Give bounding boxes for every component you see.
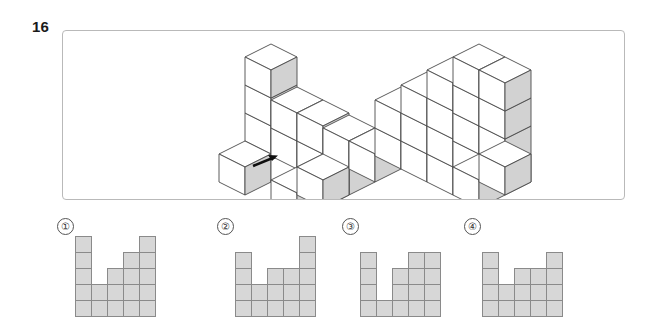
grid-column (92, 284, 108, 316)
grid-column (483, 252, 499, 316)
grid-column (547, 252, 563, 316)
grid-cell (299, 268, 316, 285)
grid-cell (75, 252, 92, 269)
grid-cell (267, 268, 284, 285)
grid-cell (546, 252, 563, 269)
grid-column (499, 284, 515, 316)
grid-column (124, 252, 140, 316)
grid-column (108, 268, 124, 316)
grid-cell (235, 300, 252, 317)
isometric-cube-figure (63, 31, 624, 199)
grid-cell (514, 300, 531, 317)
grid-cell (283, 268, 300, 285)
option-1-grid (76, 236, 156, 316)
answer-options: ①②③④ (0, 212, 647, 322)
question-number: 16 (32, 18, 49, 35)
grid-cell (360, 284, 377, 301)
grid-cell (424, 284, 441, 301)
option-2-grid (236, 236, 316, 316)
grid-column (300, 236, 316, 316)
grid-column (268, 268, 284, 316)
grid-cell (514, 284, 531, 301)
grid-cell (91, 284, 108, 301)
option-4-grid (483, 252, 563, 316)
grid-cell (360, 268, 377, 285)
grid-cell (408, 252, 425, 269)
grid-column (252, 284, 268, 316)
grid-cell (530, 268, 547, 285)
grid-cell (530, 300, 547, 317)
grid-cell (360, 300, 377, 317)
grid-cell (235, 268, 252, 285)
grid-cell (482, 252, 499, 269)
grid-cell (251, 284, 268, 301)
grid-cell (498, 284, 515, 301)
grid-cell (75, 284, 92, 301)
grid-column (284, 268, 300, 316)
grid-cell (482, 284, 499, 301)
grid-cell (424, 300, 441, 317)
grid-column (236, 252, 252, 316)
grid-column (531, 268, 547, 316)
grid-column (425, 252, 441, 316)
grid-cell (75, 268, 92, 285)
grid-cell (91, 300, 108, 317)
option-4-label: ④ (464, 218, 481, 235)
grid-column (515, 268, 531, 316)
grid-cell (107, 300, 124, 317)
option-4[interactable]: ④ (462, 212, 622, 322)
grid-cell (123, 300, 140, 317)
grid-cell (267, 300, 284, 317)
figure-panel (62, 30, 625, 200)
grid-cell (546, 284, 563, 301)
grid-cell (546, 268, 563, 285)
grid-cell (530, 284, 547, 301)
grid-cell (139, 300, 156, 317)
grid-cell (408, 300, 425, 317)
option-1[interactable]: ① (55, 212, 215, 322)
grid-cell (299, 236, 316, 253)
grid-cell (299, 284, 316, 301)
grid-cell (107, 268, 124, 285)
grid-cell (408, 284, 425, 301)
grid-cell (360, 252, 377, 269)
grid-cell (139, 268, 156, 285)
grid-column (377, 300, 393, 316)
grid-cell (392, 284, 409, 301)
grid-cell (139, 252, 156, 269)
grid-cell (392, 268, 409, 285)
grid-cell (546, 300, 563, 317)
grid-cell (514, 268, 531, 285)
grid-cell (283, 284, 300, 301)
grid-cell (267, 284, 284, 301)
grid-cell (139, 236, 156, 253)
grid-cell (283, 300, 300, 317)
option-2-label: ② (217, 218, 234, 235)
grid-cell (123, 284, 140, 301)
grid-cell (139, 284, 156, 301)
grid-cell (235, 284, 252, 301)
grid-column (393, 268, 409, 316)
cube-stack (219, 44, 531, 199)
grid-cell (299, 252, 316, 269)
grid-cell (107, 284, 124, 301)
grid-cell (482, 300, 499, 317)
grid-cell (123, 268, 140, 285)
grid-cell (424, 268, 441, 285)
grid-cell (75, 236, 92, 253)
grid-cell (392, 300, 409, 317)
grid-cell (498, 300, 515, 317)
grid-cell (123, 252, 140, 269)
grid-cell (376, 300, 393, 317)
grid-cell (424, 252, 441, 269)
grid-cell (251, 300, 268, 317)
grid-cell (408, 268, 425, 285)
grid-column (140, 236, 156, 316)
grid-column (409, 252, 425, 316)
grid-cell (299, 300, 316, 317)
grid-cell (75, 300, 92, 317)
grid-column (76, 236, 92, 316)
grid-cell (235, 252, 252, 269)
option-3-label: ③ (342, 218, 359, 235)
option-3-grid (361, 252, 441, 316)
